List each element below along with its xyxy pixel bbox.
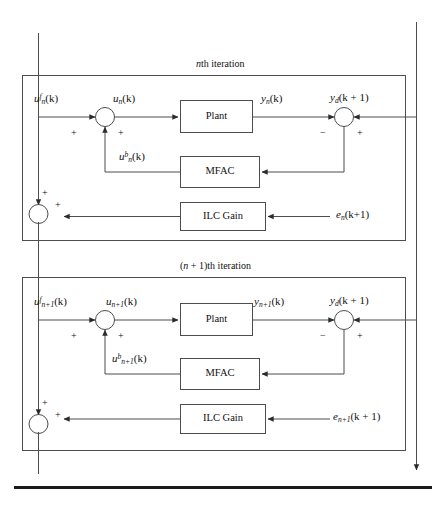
sign-accum-top-n-plus-1: + [42,398,48,408]
sum-junction-input-n [96,108,115,127]
fb-arg-np1: (k) [134,352,147,364]
sum-junction-compare-n-plus-1 [335,311,354,330]
diagram-canvas [0,0,445,505]
block-diagram-figure: nth iteration ufn(k) un(k) ubn(k) yn(k) … [0,0,445,505]
sign-input-bottom-n-plus-1: + [118,331,124,341]
e-arg-np1: (k + 1) [350,410,380,422]
section-title-np1-suffix: th iteration [207,260,251,271]
ff-sub-np1: n+1 [42,300,55,309]
e-arg-n: (k+1) [345,208,370,220]
section-title-n: nth iteration [196,59,245,69]
yd-arg-np1: (k + 1) [339,294,369,306]
u-arg-np1: (k) [124,295,137,307]
sign-accum-top-n: + [42,188,48,198]
ff-arg-n: (k) [45,92,58,104]
u-sub-np1: n+1 [112,300,125,309]
sign-accum-right-n-plus-1: + [55,410,61,420]
feedforward-label-n-plus-1: ufn+1(k) [34,296,67,309]
compare-to-mfac-line-n-plus-1 [262,330,344,375]
fb-arg-n: (k) [132,150,145,162]
control-label-n-plus-1: un+1(k) [106,296,137,309]
ff-arg-np1: (k) [54,295,67,307]
mfac-block-label-n: MFAC [180,166,260,177]
ilc-block-label-n: ILC Gain [180,211,266,222]
sign-input-left-n-plus-1: + [71,331,77,341]
e-sub-np1: n+1 [338,415,351,424]
y-sub-np1: n+1 [259,300,272,309]
section-title-n-suffix: th iteration [201,58,245,69]
ilc-block-label-n-plus-1: ILC Gain [180,413,266,424]
section-title-n-plus-1: (n + 1)th iteration [180,261,251,271]
plant-output-label-n: yn(k) [261,93,282,106]
sign-compare-left-n-plus-1: − [320,331,326,341]
sign-compare-left-n: − [320,128,326,138]
sum-junction-compare-n [335,108,354,127]
desired-output-label-n-plus-1: yd(k + 1) [330,295,369,308]
sign-input-bottom-n: + [118,128,124,138]
sign-input-left-n: + [71,128,77,138]
fb-sub-np1: n+1 [121,357,134,366]
plant-output-label-n-plus-1: yn+1(k) [254,296,284,309]
sign-accum-right-n: + [55,200,61,210]
plant-block-label-n: Plant [180,111,253,122]
sum-junction-accum-n [29,205,48,224]
feedback-label-n-plus-1: ubn+1(k) [112,353,147,366]
desired-output-label-n: yd(k + 1) [330,92,369,105]
yd-arg-n: (k + 1) [339,91,369,103]
error-label-n: en(k+1) [336,209,369,222]
sum-junction-accum-n-plus-1 [29,415,48,434]
plant-block-label-n-plus-1: Plant [180,314,253,325]
sum-junction-input-n-plus-1 [96,311,115,330]
mfac-block-label-n-plus-1: MFAC [180,368,260,379]
u-arg-n: (k) [122,92,135,104]
feedforward-label-n: ufn(k) [34,93,58,106]
compare-to-mfac-line-n [262,127,344,173]
y-arg-np1: (k) [271,295,284,307]
sign-compare-right-n: + [357,128,363,138]
control-label-n: un(k) [113,93,135,106]
y-arg-n: (k) [270,92,283,104]
error-label-n-plus-1: en+1(k + 1) [333,411,380,424]
feedback-label-n: ubn(k) [119,151,145,164]
section-title-np1-mid: + 1) [188,260,207,271]
sign-compare-right-n-plus-1: + [357,331,363,341]
